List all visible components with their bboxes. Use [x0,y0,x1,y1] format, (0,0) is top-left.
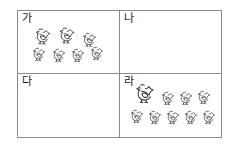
chicken-group-ga [18,11,119,73]
chicken-icon [177,89,195,107]
worksheet-cell-ra[interactable]: 라 [120,74,222,137]
chicken-icon [128,107,146,125]
worksheet-cell-ga[interactable]: 가 [18,11,120,74]
chicken-icon [132,80,158,106]
worksheet-cell-da[interactable]: 다 [18,74,120,137]
chicken-group-ra [120,74,222,137]
chicken-icon [32,25,54,47]
chicken-icon [30,45,48,63]
chicken-group-na [120,11,222,73]
counting-worksheet-grid: 가 나 다 라 [17,10,222,138]
chicken-icon [88,44,106,62]
chicken-icon [50,46,68,64]
chicken-icon [159,89,177,107]
worksheet-cell-na[interactable]: 나 [120,11,222,74]
chicken-icon [164,108,182,126]
chicken-icon [69,46,87,64]
chicken-icon [182,108,200,126]
chicken-icon [195,88,213,106]
chicken-icon [200,108,218,126]
chicken-icon [146,108,164,126]
chicken-group-da [18,74,119,137]
chicken-icon [56,24,78,46]
